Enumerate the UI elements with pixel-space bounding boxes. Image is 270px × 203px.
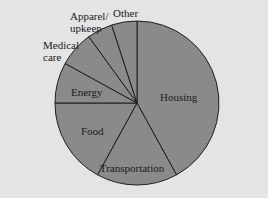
label-energy: Energy	[71, 87, 103, 98]
label-other: Other	[113, 8, 138, 19]
label-apparel-line1: Apparel/	[70, 11, 108, 22]
label-apparel-upkeep: Apparel/ upkeep	[70, 11, 108, 34]
label-apparel-line2: upkeep	[70, 23, 108, 34]
pie-chart-figure: Housing Transportation Food Energy Medic…	[0, 0, 268, 198]
label-medical-care: Medical care	[43, 40, 79, 63]
label-medical-line1: Medical	[43, 40, 79, 51]
label-medical-line2: care	[43, 52, 79, 63]
label-food: Food	[81, 126, 104, 137]
label-housing: Housing	[160, 92, 197, 103]
label-transportation: Transportation	[100, 163, 164, 174]
